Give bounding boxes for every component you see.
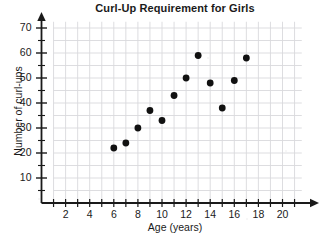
plot-canvas (0, 0, 325, 243)
y-tick-label-30: 30 (10, 121, 32, 133)
scatter-plot-figure: Curl-Up Requirement for Girls Number of … (0, 0, 325, 243)
data-point (219, 105, 226, 112)
x-tick-label-18: 18 (247, 208, 269, 220)
y-tick-label-70: 70 (10, 21, 32, 33)
x-tick-label-14: 14 (199, 208, 221, 220)
y-tick-label-10: 10 (10, 171, 32, 183)
x-axis-arrow (310, 199, 319, 207)
data-point (231, 77, 238, 84)
x-tick-label-12: 12 (175, 208, 197, 220)
y-tick-label-20: 20 (10, 146, 32, 158)
x-tick-label-2: 2 (55, 208, 77, 220)
data-point (110, 145, 117, 152)
x-tick-label-4: 4 (79, 208, 101, 220)
y-tick-label-50: 50 (10, 71, 32, 83)
x-tick-label-6: 6 (103, 208, 125, 220)
y-axis-arrow (37, 12, 45, 21)
x-tick-label-8: 8 (127, 208, 149, 220)
y-tick-label-40: 40 (10, 96, 32, 108)
data-point (183, 75, 190, 82)
data-point (122, 140, 129, 147)
data-point (171, 92, 178, 99)
x-tick-label-10: 10 (151, 208, 173, 220)
axis-ticks (36, 28, 295, 207)
x-tick-label-20: 20 (272, 208, 294, 220)
grid-lines (54, 22, 302, 203)
data-point (135, 125, 142, 132)
data-points (110, 52, 249, 151)
x-tick-label-16: 16 (223, 208, 245, 220)
data-point (147, 107, 154, 114)
y-tick-label-60: 60 (10, 46, 32, 58)
data-point (243, 55, 250, 62)
data-point (159, 117, 166, 124)
data-point (195, 52, 202, 59)
data-point (207, 80, 214, 87)
